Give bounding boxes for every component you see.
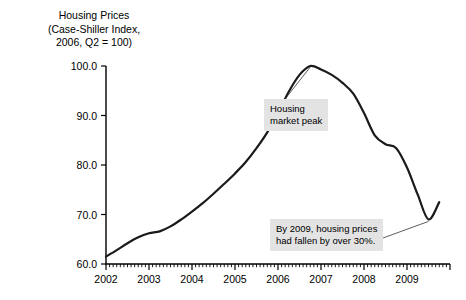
annotation-peak-line-1: Housing [270, 103, 322, 115]
annotation-price-decline: By 2009, housing prices had fallen by ov… [270, 219, 383, 251]
x-tick-label: 2007 [309, 273, 333, 285]
annotation-housing-market-peak: Housing market peak [264, 99, 328, 131]
x-tick-label: 2002 [94, 273, 118, 285]
chart-plot-area: 60.070.080.090.0100.0 200220032004200520… [0, 0, 466, 300]
y-tick-label: 100.0 [71, 60, 97, 72]
x-axis-ticks [106, 264, 450, 270]
annotation-leader-decline [383, 221, 429, 238]
y-tick-label: 60.0 [77, 258, 98, 270]
y-tick-label: 90.0 [77, 110, 98, 122]
annotation-decline-line-1: By 2009, housing prices [276, 223, 377, 235]
x-axis-tick-labels: 20022003200420052006200720082009 [94, 273, 419, 285]
y-axis-tick-labels: 60.070.080.090.0100.0 [71, 60, 97, 270]
x-tick-label: 2008 [352, 273, 376, 285]
y-tick-label: 80.0 [77, 159, 98, 171]
x-tick-label: 2004 [180, 273, 204, 285]
annotation-decline-line-2: had fallen by over 30%. [276, 235, 377, 247]
y-tick-label: 70.0 [77, 209, 98, 221]
x-tick-label: 2003 [137, 273, 161, 285]
x-tick-label: 2009 [395, 273, 419, 285]
annotation-leader-peak [285, 67, 310, 99]
annotation-peak-line-2: market peak [270, 115, 322, 127]
x-tick-label: 2005 [223, 273, 247, 285]
chart-figure: Housing Prices (Case-Shiller Index, 2006… [0, 0, 466, 300]
x-tick-label: 2006 [266, 273, 290, 285]
y-axis-ticks [101, 66, 106, 264]
